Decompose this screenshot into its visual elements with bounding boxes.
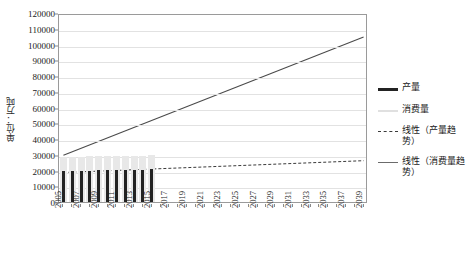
y-axis-tick-label: 110000 [28, 25, 55, 35]
x-axis-tick-label: 2005 [53, 191, 63, 208]
gridline [59, 47, 366, 48]
output-bar-line-icon [378, 88, 398, 95]
y-axis-tick-label: 80000 [33, 72, 56, 82]
gridline [59, 31, 366, 32]
gridline [59, 125, 366, 126]
x-axis-tick-label: 2023 [212, 191, 222, 208]
legend-item[interactable]: 线性（消费量趋势） [378, 156, 470, 178]
x-axis-tick-label: 2015 [142, 191, 152, 208]
chart-legend: 产量消费量线性（产量趋势）线性（消费量趋势） [378, 82, 470, 187]
y-axis-tick-label: 100000 [28, 41, 55, 51]
x-axis-tick-label: 2013 [124, 191, 134, 208]
plot-area [58, 14, 367, 203]
x-axis-tick-label: 2029 [265, 191, 275, 208]
x-axis-tick-label: 2031 [283, 191, 293, 208]
gridline [59, 110, 366, 111]
trend-line-consumption [63, 37, 363, 155]
y-axis-tick-label: 50000 [33, 119, 56, 129]
gridline [59, 141, 366, 142]
x-axis-tick-label: 2007 [71, 191, 81, 208]
x-axis-tick-label: 2021 [195, 191, 205, 208]
x-axis-tick-label: 2033 [301, 191, 311, 208]
y-axis-tick-label: 60000 [33, 104, 56, 114]
y-axis-tick-label: 10000 [33, 182, 56, 192]
y-axis-tick-label: 70000 [33, 88, 56, 98]
output-trend-line-icon [378, 131, 398, 136]
x-axis-tick-label: 2011 [106, 191, 116, 208]
x-axis-tick-label: 2009 [89, 191, 99, 208]
x-axis-tick-label: 2019 [177, 191, 187, 208]
x-axis-tick-label: 2027 [248, 191, 258, 208]
consume-trend-line-icon [378, 162, 398, 167]
x-axis-tick-label: 2025 [230, 191, 240, 208]
legend-item-label: 线性（消费量趋势） [402, 156, 466, 178]
legend-item[interactable]: 线性（产量趋势） [378, 125, 470, 147]
x-axis-tick-label: 2035 [318, 191, 328, 208]
legend-item[interactable]: 产量 [378, 82, 470, 95]
gridline [59, 78, 366, 79]
x-axis-tick-label: 2039 [354, 191, 364, 208]
legend-item[interactable]: 消费量 [378, 104, 470, 116]
legend-item-label: 线性（产量趋势） [402, 125, 466, 147]
x-axis-tick-label: 2037 [336, 191, 346, 208]
y-axis-tick-label: 30000 [33, 151, 56, 161]
legend-item-label: 消费量 [402, 104, 466, 115]
y-axis-tick-label: 120000 [28, 9, 55, 19]
chart-container: 单位：万吨 1200001100001000009000080000700006… [0, 0, 472, 253]
gridline [59, 94, 366, 95]
y-axis-tick-label: 20000 [33, 167, 56, 177]
y-axis-tick-label: 90000 [33, 56, 56, 66]
y-axis-tick-labels: 1200001100001000009000080000700006000050… [14, 14, 58, 203]
x-axis-tick-labels: 2005200720092011201320152017201920212023… [58, 204, 367, 250]
legend-item-label: 产量 [402, 82, 466, 93]
y-axis-tick-label: 40000 [33, 135, 56, 145]
x-axis-tick-label: 2017 [159, 191, 169, 208]
gridline [59, 62, 366, 63]
consume-bar-line-icon [378, 110, 398, 116]
